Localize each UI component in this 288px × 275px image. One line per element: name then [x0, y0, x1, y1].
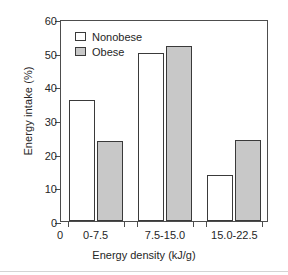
- legend-label-nonobese: Nonobese: [92, 31, 142, 43]
- y-tick-label: 10: [45, 183, 57, 195]
- y-tick-label: 60: [45, 15, 57, 27]
- x-tick: [68, 221, 69, 227]
- x-tick: [262, 221, 263, 227]
- bar-nonobese-1: [138, 53, 164, 221]
- y-axis-title: Energy intake (%): [22, 21, 34, 201]
- figure-canvas: Energy intake (%) 0102030405060 0-7.57.5…: [0, 0, 288, 275]
- x-axis-title: Energy density (kJ/g): [0, 249, 288, 261]
- y-tick-label: 20: [45, 150, 57, 162]
- y-tick-label: 50: [45, 49, 57, 61]
- x-origin-label: 0: [57, 229, 63, 241]
- x-tick-label: 7.5-15.0: [145, 229, 185, 241]
- x-tick: [124, 221, 125, 227]
- y-tick-label: 30: [45, 116, 57, 128]
- bottom-divider: [0, 271, 288, 272]
- x-tick: [193, 221, 194, 227]
- x-tick: [137, 221, 138, 227]
- legend-item-nonobese: Nonobese: [75, 29, 142, 44]
- x-tick-label: 0-7.5: [83, 229, 108, 241]
- bar-nonobese-0: [69, 100, 95, 221]
- bar-obese-0: [97, 141, 123, 221]
- legend-item-obese: Obese: [75, 44, 142, 59]
- x-tick: [206, 221, 207, 227]
- legend-label-obese: Obese: [92, 46, 124, 58]
- x-tick-label: 15.0-22.5: [211, 229, 257, 241]
- legend: Nonobese Obese: [75, 29, 142, 59]
- plot-area: 0102030405060 0-7.57.5-15.015.0-22.5 0 N…: [60, 20, 268, 222]
- bar-obese-2: [235, 140, 261, 221]
- legend-swatch-nonobese: [75, 32, 86, 41]
- bar-obese-1: [166, 46, 192, 221]
- bar-nonobese-2: [207, 175, 233, 221]
- y-tick-label: 40: [45, 82, 57, 94]
- legend-swatch-obese: [75, 47, 86, 56]
- y-tick-label: 0: [51, 217, 57, 229]
